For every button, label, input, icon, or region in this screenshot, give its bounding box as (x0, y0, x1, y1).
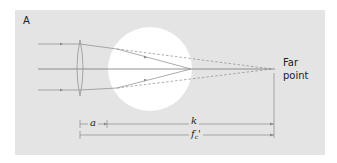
arrow-icon (270, 134, 274, 137)
f-prime: ' (198, 128, 201, 139)
dimension-f-label: fc' (189, 129, 203, 142)
dimension-a-label: a (88, 118, 98, 128)
far-point-label: Far point (283, 56, 309, 82)
arrow-icon (104, 123, 107, 126)
arrow-icon (270, 123, 274, 126)
arrow-icon (60, 43, 63, 46)
arrow-icon (60, 89, 63, 92)
diverged-ray-top (80, 44, 117, 49)
diverged-ray-bottom (80, 88, 117, 90)
dimension-k-label: k (189, 116, 199, 126)
corrective-lens (77, 40, 83, 96)
panel-label: A (23, 15, 30, 26)
far-point-label-line2: point (283, 69, 309, 82)
far-point-label-line1: Far (283, 56, 309, 69)
